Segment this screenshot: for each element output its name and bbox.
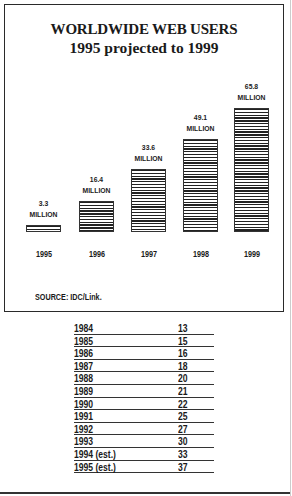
table-row: 198616 — [74, 347, 214, 360]
bar-1998 — [183, 139, 218, 232]
year-cell: 1991 — [74, 410, 93, 422]
chart-title: WORLDWIDE WEB USERS — [5, 21, 283, 38]
bar-1996 — [79, 201, 114, 232]
table-row: 198413 — [74, 322, 214, 335]
value-cell: 37 — [178, 461, 188, 473]
year-cell: 1987 — [74, 360, 93, 372]
value-cell: 18 — [178, 360, 188, 372]
bar-unit: MILLION — [232, 92, 272, 103]
year-cell: 1986 — [74, 347, 93, 359]
bar-unit: MILLION — [77, 185, 117, 196]
bar-value-label: 49.1MILLION — [181, 112, 221, 134]
table-row: 198921 — [74, 385, 214, 398]
bar-unit: MILLION — [181, 123, 221, 134]
bar-value: 16.4 — [77, 174, 117, 185]
year-cell: 1989 — [74, 385, 93, 397]
bar-value: 33.6 — [129, 142, 169, 153]
bar-1995 — [26, 225, 61, 232]
table-row: 199022 — [74, 398, 214, 411]
year-cell: 1990 — [74, 398, 93, 410]
year-cell: 1984 — [74, 322, 93, 334]
table-row: 1995 (est.)37 — [74, 461, 214, 474]
table-row: 198515 — [74, 335, 214, 348]
bar-value: 49.1 — [181, 112, 221, 123]
bar-value: 65.8 — [232, 81, 272, 92]
x-tick-label: 1997 — [132, 249, 166, 259]
value-cell: 20 — [178, 372, 188, 384]
x-tick-label: 1998 — [184, 249, 218, 259]
x-tick-label: 1996 — [80, 249, 114, 259]
bottom-rule — [0, 492, 290, 494]
source-note: SOURCE: IDC/Link. — [35, 292, 102, 302]
table-row: 199125 — [74, 410, 214, 423]
year-cell: 1995 (est.) — [74, 461, 116, 473]
value-cell: 21 — [178, 385, 188, 397]
data-table: 1984131985151986161987181988201989211990… — [74, 322, 214, 473]
value-cell: 25 — [178, 410, 188, 422]
bar-value-label: 16.4MILLION — [77, 174, 117, 196]
chart-subtitle: 1995 projected to 1999 — [5, 39, 283, 57]
bar-unit: MILLION — [129, 153, 169, 164]
table-row: 199227 — [74, 423, 214, 436]
value-cell: 16 — [178, 347, 188, 359]
chart-frame: WORLDWIDE WEB USERS 1995 projected to 19… — [4, 4, 284, 312]
value-cell: 15 — [178, 335, 188, 347]
bar-1999 — [234, 108, 269, 232]
bar-unit: MILLION — [24, 209, 64, 220]
year-cell: 1992 — [74, 423, 93, 435]
table-row: 199330 — [74, 435, 214, 448]
year-cell: 1993 — [74, 435, 93, 447]
year-cell: 1988 — [74, 372, 93, 384]
table-row: 198820 — [74, 372, 214, 385]
table-row: 198718 — [74, 360, 214, 373]
x-tick-label: 1995 — [27, 249, 61, 259]
bar-value-label: 3.3MILLION — [24, 198, 64, 220]
x-tick-label: 1999 — [235, 249, 269, 259]
bar-value-label: 33.6MILLION — [129, 142, 169, 164]
value-cell: 27 — [178, 423, 188, 435]
value-cell: 33 — [178, 448, 188, 460]
bar-value-label: 65.8MILLION — [232, 81, 272, 103]
year-cell: 1994 (est.) — [74, 448, 116, 460]
value-cell: 22 — [178, 398, 188, 410]
bar-value: 3.3 — [24, 198, 64, 209]
page-edge-line — [290, 0, 291, 496]
value-cell: 13 — [178, 322, 188, 334]
year-cell: 1985 — [74, 335, 93, 347]
bar-1997 — [131, 169, 166, 232]
table-row: 1994 (est.)33 — [74, 448, 214, 461]
value-cell: 30 — [178, 435, 188, 447]
